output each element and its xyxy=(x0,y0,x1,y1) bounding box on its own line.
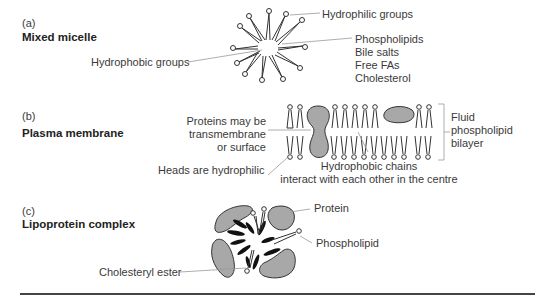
label-cholesteryl-ester: Cholesteryl ester xyxy=(99,266,182,279)
component-cholesterol: Cholesterol xyxy=(355,72,424,85)
label-hydrophobic-groups: Hydrophobic groups xyxy=(91,56,189,69)
label-bilayer-line2: phospholipid xyxy=(451,124,513,137)
label-bilayer: Fluid phospholipid bilayer xyxy=(451,111,513,150)
label-chains-line2: interact with each other in the centre xyxy=(280,173,458,186)
label-phospholipid: Phospholipid xyxy=(316,237,379,250)
label-chains-line1: Hydrophobic chains xyxy=(280,160,458,173)
protein-top-right xyxy=(268,206,294,230)
surface-protein xyxy=(384,107,414,123)
bilayer-bracket xyxy=(438,104,444,160)
micelle-molecules xyxy=(231,9,308,83)
label-proteins-line2: transmembrane xyxy=(178,128,266,141)
label-proteins: Proteins may be transmembrane or surface xyxy=(178,115,266,154)
component-phospholipids: Phospholipids xyxy=(355,33,424,46)
label-proteins-line3: or surface xyxy=(178,141,266,154)
label-micelle-components: Phospholipids Bile salts Free FAs Choles… xyxy=(355,33,424,85)
label-heads-hydrophilic: Heads are hydrophilic xyxy=(158,164,264,177)
protein-top-left xyxy=(215,206,252,233)
protein-left xyxy=(212,239,235,277)
label-proteins-line1: Proteins may be xyxy=(178,115,266,128)
panel-a-title: Mixed micelle xyxy=(22,31,97,43)
label-bilayer-line3: bilayer xyxy=(451,137,513,150)
component-free-fas: Free FAs xyxy=(355,59,424,72)
label-hydrophilic-groups: Hydrophilic groups xyxy=(322,8,413,21)
membrane-bottom-leaflet xyxy=(287,136,431,159)
transmembrane-protein xyxy=(307,106,329,158)
label-hydrophobic-chains: Hydrophobic chains interact with each ot… xyxy=(280,160,458,186)
panel-b-letter: (b) xyxy=(22,110,35,122)
panel-c-title: Lipoprotein complex xyxy=(22,218,135,230)
panel-a-letter: (a) xyxy=(22,17,35,29)
label-protein: Protein xyxy=(314,202,349,215)
panel-b-title: Plasma membrane xyxy=(22,127,124,139)
bottom-rule xyxy=(20,293,535,295)
lipoprotein-drawing xyxy=(180,206,312,278)
panel-c-letter: (c) xyxy=(22,205,35,217)
component-bile-salts: Bile salts xyxy=(355,46,424,59)
label-bilayer-line1: Fluid xyxy=(451,111,513,124)
